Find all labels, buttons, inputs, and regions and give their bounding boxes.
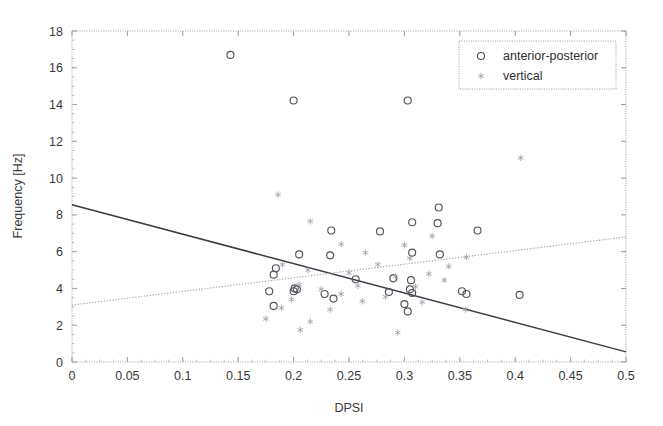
y-tick-label: 10 [49,172,63,186]
legend-label-anterior-posterior: anterior-posterior [503,49,598,63]
y-axis-title: Frequency [Hz] [11,154,25,239]
y-tick-label: 6 [56,245,63,259]
x-axis-title: DPSI [334,401,363,415]
y-tick-label: 18 [49,25,63,39]
y-tick-label: 8 [56,208,63,222]
y-tick-label: 14 [49,98,63,112]
x-tick-label: 0.15 [226,369,250,383]
x-tick-label: 0 [69,369,76,383]
x-tick-label: 0.05 [115,369,139,383]
x-tick-label: 0.1 [174,369,191,383]
y-tick-label: 0 [56,356,63,370]
x-tick-label: 0.4 [507,369,524,383]
y-tick-label: 16 [49,61,63,75]
x-tick-label: 0.2 [285,369,302,383]
x-tick-label: 0.5 [617,369,634,383]
x-tick-label: 0.35 [448,369,472,383]
scatter-plot-figure: 00.050.10.150.20.250.30.350.40.450.5 024… [0,0,663,426]
y-tick-label: 4 [56,282,63,296]
x-tick-label: 0.45 [558,369,582,383]
x-tick-label: 0.25 [337,369,361,383]
legend-label-vertical: vertical [503,69,543,83]
y-tick-label: 12 [49,135,63,149]
y-tick-label: 2 [56,319,63,333]
legend: anterior-posteriorvertical [459,41,616,89]
plot-canvas: 00.050.10.150.20.250.30.350.40.450.5 024… [0,0,663,426]
x-tick-label: 0.3 [396,369,413,383]
